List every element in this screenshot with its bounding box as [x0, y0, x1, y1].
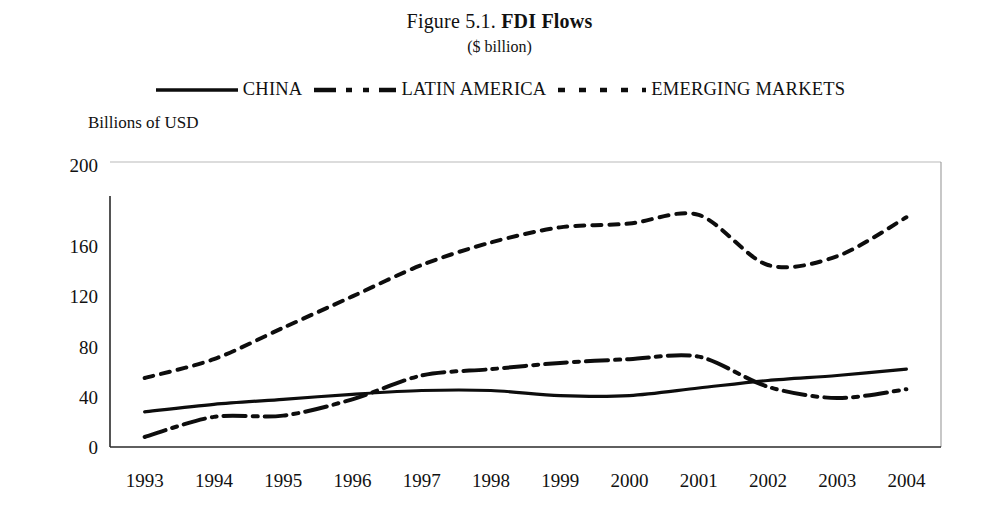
- x-axis-tick-label: 2002: [749, 470, 787, 491]
- series-line-latin-america: [145, 355, 907, 437]
- y-axis-tick-label: 80: [79, 337, 98, 358]
- x-axis-tick-label: 2000: [610, 470, 648, 491]
- x-axis-tick-label: 1997: [403, 470, 441, 491]
- figure-container: Figure 5.1. FDI Flows ($ billion) CHINA …: [0, 0, 999, 529]
- plot-area: 04080120160200 1993199419951996199719981…: [0, 0, 999, 529]
- chart-svg: 04080120160200 1993199419951996199719981…: [0, 0, 999, 529]
- y-axis-tick-label: 40: [79, 387, 98, 408]
- x-axis-tick-label: 1993: [126, 470, 164, 491]
- y-axis-tick-label: 0: [89, 437, 99, 458]
- x-axis-ticks: 1993199419951996199719981999200020012002…: [126, 470, 926, 491]
- x-axis-tick-label: 1998: [472, 470, 510, 491]
- series-line-emerging-markets: [145, 213, 907, 378]
- x-axis-tick-label: 1995: [264, 470, 302, 491]
- x-axis-tick-label: 2003: [818, 470, 856, 491]
- y-axis-ticks: 04080120160200: [40, 152, 110, 458]
- y-axis-tick-label: 120: [70, 286, 99, 307]
- x-axis-tick-label: 1996: [333, 470, 371, 491]
- x-axis-tick-label: 2004: [887, 470, 926, 491]
- scan-clip-mask: [40, 152, 110, 159]
- x-axis-tick-label: 2001: [680, 470, 718, 491]
- x-axis-tick-label: 1994: [195, 470, 234, 491]
- y-axis-tick-label: 160: [70, 236, 99, 257]
- data-series-group: [145, 213, 907, 437]
- x-axis-tick-label: 1999: [541, 470, 579, 491]
- series-line-china: [145, 369, 907, 412]
